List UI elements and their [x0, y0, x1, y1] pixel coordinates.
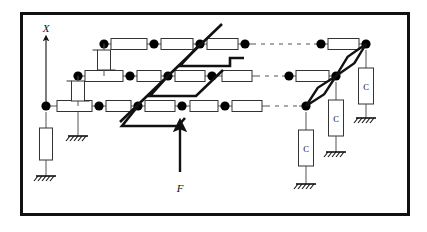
schematic-canvas: CCC X F: [0, 0, 427, 232]
resistor-box: [222, 71, 252, 82]
figure-root: CCC X F: [0, 0, 427, 232]
resistor-box: [190, 101, 218, 112]
element-box: [40, 128, 53, 160]
resistor-box: [207, 39, 238, 50]
axis-x-label: X: [42, 22, 51, 34]
node-dot: [316, 39, 325, 48]
grounded-element: [34, 112, 56, 181]
resistor-box: [106, 101, 131, 112]
capacitor-unit: C: [294, 112, 316, 189]
capacitor-label: C: [303, 144, 309, 154]
resistor-box: [161, 39, 193, 50]
row-bottom: [41, 101, 310, 112]
node-dot: [149, 39, 158, 48]
node-dot: [94, 101, 103, 110]
row-middle: [73, 71, 340, 82]
capacitor-unit: C: [324, 82, 346, 157]
grounded-element: [66, 112, 88, 141]
resistor-box: [145, 101, 175, 112]
resistor-box: [111, 39, 147, 50]
resistor-box: [296, 71, 329, 82]
force-label: F: [176, 182, 184, 194]
node-dot: [177, 101, 186, 110]
node-dot: [220, 101, 229, 110]
resistor-box: [328, 39, 359, 50]
node-dot: [125, 71, 134, 80]
resistor-box: [137, 71, 161, 82]
schematic-svg: CCC X F: [0, 0, 427, 232]
bold-branch-polylines: [122, 44, 244, 126]
left-grounded-elements: [34, 112, 88, 181]
coupler-box: [98, 50, 111, 70]
capacitor-label: C: [363, 82, 369, 92]
node-dot: [284, 71, 293, 80]
capacitor-label: C: [333, 114, 339, 124]
node-dot: [240, 39, 249, 48]
coupler-box: [72, 81, 85, 101]
ladder-rows: [41, 39, 370, 112]
row-top: [99, 39, 370, 50]
capacitor-unit: C: [354, 50, 376, 123]
resistor-box: [232, 101, 262, 112]
resistor-box: [57, 101, 92, 112]
resistor-box: [175, 71, 205, 82]
